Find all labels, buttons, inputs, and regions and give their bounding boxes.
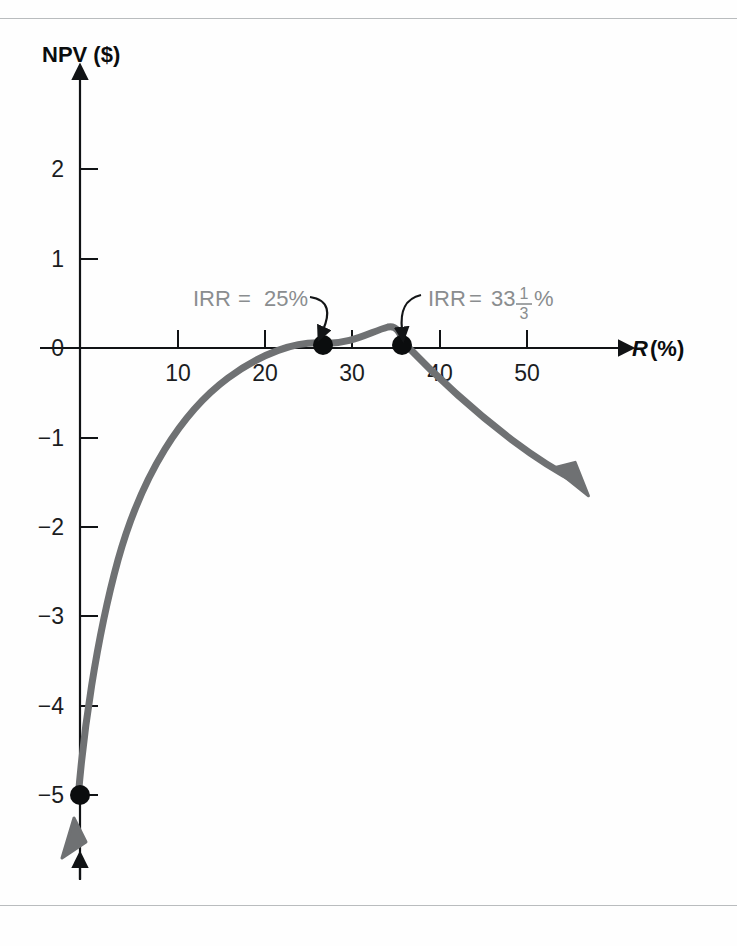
- y-axis-title: NPV ($): [42, 42, 120, 67]
- y-tick-label-minus-4: −4: [38, 693, 64, 719]
- irr-25-prefix: IRR: [193, 286, 231, 311]
- x-axis-unit: (%): [650, 336, 684, 361]
- npv-chart-figure: 2 1 0 −1 −2 −3 −4 −5 10 20 30 40 50 NPV …: [0, 0, 737, 946]
- npv-curve-group: [62, 327, 595, 858]
- y-tick-label-minus-1: −1: [38, 425, 64, 451]
- irr-33-whole: 33: [491, 286, 515, 311]
- irr-25-value: 25%: [264, 286, 308, 311]
- irr-33-fraction-denominator: 3: [520, 305, 529, 322]
- x-tick-label-10: 10: [165, 360, 191, 386]
- y-tick-label-2: 2: [51, 156, 64, 182]
- irr-25-leader-arrow: [310, 297, 327, 330]
- x-tick-label-50: 50: [514, 360, 540, 386]
- annotation-irr-25: IRR = 25%: [193, 286, 327, 330]
- marker-initial-investment: [70, 785, 90, 805]
- y-axis-tick-labels: 2 1 0 −1 −2 −3 −4 −5: [38, 156, 64, 808]
- npv-curve-path: [78, 327, 578, 800]
- marker-irr-33: [392, 335, 412, 355]
- irr-33-fraction-numerator: 1: [520, 285, 529, 302]
- curve-end-arrowhead: [549, 458, 594, 496]
- irr-33-prefix: IRR: [428, 286, 466, 311]
- irr-33-percent: %: [534, 286, 554, 311]
- y-tick-label-minus-2: −2: [38, 514, 64, 540]
- annotation-irr-33: IRR = 33 1 3 %: [402, 285, 554, 330]
- curve-start-arrowhead: [62, 818, 86, 858]
- npv-plot-svg: 2 1 0 −1 −2 −3 −4 −5 10 20 30 40 50 NPV …: [0, 0, 737, 946]
- marker-irr-25: [313, 335, 333, 355]
- irr-33-equals: =: [469, 286, 482, 311]
- irr-25-equals: =: [238, 286, 251, 311]
- x-axis-symbol: R: [632, 336, 648, 361]
- y-tick-label-minus-3: −3: [38, 603, 64, 629]
- x-axis-title: R (%): [632, 336, 684, 361]
- y-tick-label-0: 0: [51, 335, 64, 361]
- y-tick-label-1: 1: [51, 246, 64, 272]
- y-tick-label-minus-5: −5: [38, 782, 64, 808]
- irr-33-leader-arrow: [402, 295, 421, 330]
- data-markers: [70, 335, 412, 805]
- x-tick-label-30: 30: [339, 360, 365, 386]
